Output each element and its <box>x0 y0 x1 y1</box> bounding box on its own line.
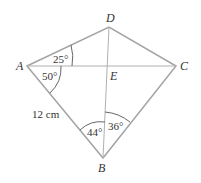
length-label-AB: 12 cm <box>32 108 60 120</box>
point-label-C: C <box>180 59 189 73</box>
point-label-D: D <box>105 11 115 25</box>
angle-label-DAE: 25° <box>53 53 68 65</box>
angle-label-EBC: 36° <box>108 120 123 132</box>
angle-arc-DAE <box>71 45 73 66</box>
kite-diagram: D A C E B 25° 50° 44° 36° 12 cm <box>0 0 201 183</box>
point-label-E: E <box>109 69 118 83</box>
angle-label-EAB: 50° <box>42 70 57 82</box>
diagonal-DB <box>103 27 109 158</box>
angle-label-ABE: 44° <box>87 126 102 138</box>
quadrilateral-ABCD <box>27 27 176 158</box>
point-label-B: B <box>98 161 106 175</box>
point-label-A: A <box>15 59 24 73</box>
